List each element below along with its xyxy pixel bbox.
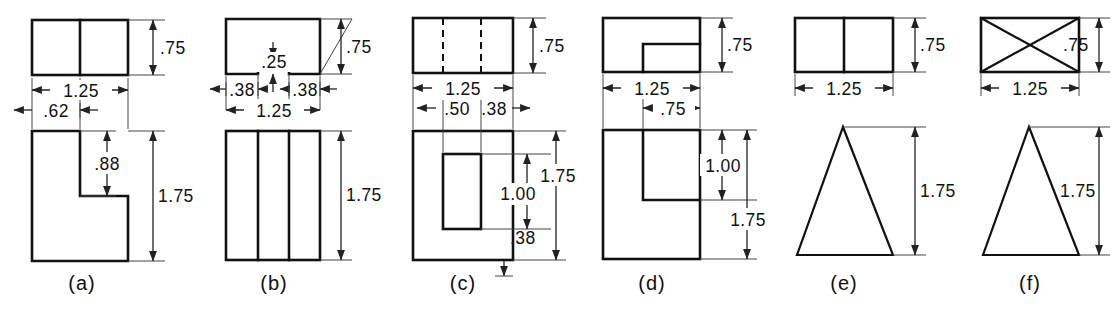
- panel-d-front-view: [603, 130, 700, 259]
- panel-a-dim-088-label: .88: [94, 154, 120, 174]
- panel-c-dim-175-label: 1.75: [540, 166, 576, 186]
- panel-d-dim-075-slot-label: .75: [660, 99, 686, 119]
- panel-b-dim-height-top: .75: [341, 19, 372, 74]
- panel-a-dim-175-label: 1.75: [158, 186, 194, 206]
- panel-a-dim-062-label: .62: [43, 101, 69, 121]
- panel-e-dim-height-front: 1.75: [915, 127, 956, 255]
- panel-e-dim-125-label: 1.25: [826, 79, 862, 99]
- panel-d-top-step-line: [643, 44, 700, 72]
- panel-e-caption: (e): [830, 272, 857, 294]
- panel-d-dim-slot-width: .75: [643, 98, 700, 119]
- panel-c: .75 1.25 .50 .38 1.75: [413, 18, 578, 294]
- panel-c-dim-height-top: .75: [533, 18, 565, 73]
- panel-a-dim-step: .88: [86, 131, 128, 196]
- panel-f-dim-width: 1.25: [981, 78, 1079, 99]
- panel-d-dim-height-front: 1.75: [728, 130, 768, 259]
- panel-d-dim-100-label: 1.00: [705, 156, 741, 176]
- panel-c-dim-075-label: .75: [539, 36, 565, 56]
- panel-d-dim-075-label: .75: [727, 35, 753, 55]
- panel-d-dim-width: 1.25: [603, 78, 700, 99]
- panel-b-dim-left: .38: [210, 80, 268, 100]
- panel-f-caption: (f): [1019, 272, 1041, 294]
- panel-a-top-view: [32, 20, 128, 75]
- panel-c-dim-100-label: 1.00: [500, 184, 536, 204]
- panel-c-dim-inner-offset: .50: [417, 99, 470, 119]
- panel-e-dim-075-label: .75: [920, 35, 946, 55]
- panel-d-dim-125-label: 1.25: [634, 79, 670, 99]
- panel-a-caption: (a): [68, 272, 95, 294]
- panel-f-dim-075-label: .75: [1063, 35, 1089, 55]
- panel-c-top-view: [413, 18, 513, 73]
- panel-b-dim-125-label: 1.25: [256, 101, 292, 121]
- panel-a-dim-height-front: 1.75: [153, 131, 194, 261]
- panel-f-dim-height-top: .75: [1063, 18, 1099, 72]
- panel-e-extension-lines: [795, 18, 926, 255]
- panel-d-dim-slot-height: 1.00: [700, 130, 746, 200]
- panel-c-top-rect: [413, 18, 513, 73]
- panel-b-front-rect: [226, 131, 320, 260]
- panel-a-dim-width: 1.25: [32, 80, 128, 101]
- panel-e-top-view: [795, 18, 893, 72]
- panel-a-dim-offset: .62: [14, 101, 98, 121]
- panel-d-front-rect: [603, 130, 700, 259]
- panel-e-front-triangle: [797, 127, 893, 255]
- panel-c-dim-height-front: 1.75: [538, 131, 578, 260]
- panel-c-caption: (c): [450, 272, 476, 294]
- panel-b: .75 .25 .38: [210, 19, 382, 294]
- panel-c-dim-inner-height: 1.00: [495, 154, 541, 229]
- panel-e-dim-width: 1.25: [795, 78, 893, 99]
- panel-e-dim-height-top: .75: [915, 18, 946, 72]
- panel-e: .75 1.25 1.75 (e): [795, 18, 956, 294]
- panel-a-dim-125-label: 1.25: [63, 81, 99, 101]
- panel-d-top-view: [603, 18, 700, 72]
- panel-c-dim-inner-width: .38: [481, 99, 530, 119]
- panel-b-dim-notch: .25: [256, 42, 292, 92]
- panel-d-caption: (d): [638, 272, 665, 294]
- panel-b-dim-038-right-label: .38: [292, 80, 318, 100]
- panel-e-dim-175-label: 1.75: [920, 181, 956, 201]
- panel-a-dim-height-top: .75: [153, 20, 186, 75]
- panel-b-caption: (b): [260, 272, 287, 294]
- panel-d-dim-height-top: .75: [722, 18, 753, 72]
- panel-c-dim-width: 1.25: [413, 78, 513, 99]
- panel-f-dim-125-label: 1.25: [1012, 79, 1048, 99]
- panel-f: .75 1.25 1.75 (f): [981, 18, 1110, 294]
- panel-c-front-inner-rect: [443, 154, 481, 229]
- panel-b-dim-175-label: 1.75: [346, 185, 382, 205]
- panel-c-dim-bottom: .38: [495, 228, 536, 276]
- panel-c-dim-125-label: 1.25: [445, 79, 481, 99]
- panel-d-front-slot-line: [643, 130, 700, 200]
- panel-a: .75 1.25 .62 .88: [14, 20, 194, 294]
- panel-c-dim-038-label: .38: [481, 99, 507, 119]
- panel-b-dim-025-label: .25: [261, 52, 287, 72]
- panel-b-front-view: [226, 131, 320, 260]
- panel-f-dim-height-front: 1.75: [1060, 127, 1099, 255]
- panel-f-dim-175-label: 1.75: [1060, 181, 1096, 201]
- panel-d: .75 1.25 .75 1.00: [603, 18, 768, 294]
- panel-d-dim-175-label: 1.75: [730, 210, 766, 230]
- panel-c-dim-038-bottom-label: .38: [510, 228, 536, 248]
- panel-a-extension-lines: [32, 20, 165, 261]
- panel-e-front-view: [797, 127, 893, 255]
- panel-b-dim-075-label: .75: [346, 37, 372, 57]
- panel-c-dim-050-label: .50: [444, 99, 470, 119]
- panel-b-dim-038-left-label: .38: [229, 80, 255, 100]
- panel-b-dim-width: 1.25: [226, 100, 320, 121]
- panel-a-dim-075-label: .75: [160, 38, 186, 58]
- multiview-drawing-canvas: .75 1.25 .62 .88: [0, 0, 1119, 321]
- panel-b-dim-height-front: 1.75: [341, 131, 382, 260]
- drawing-sheet: .75 1.25 .62 .88: [0, 0, 1119, 321]
